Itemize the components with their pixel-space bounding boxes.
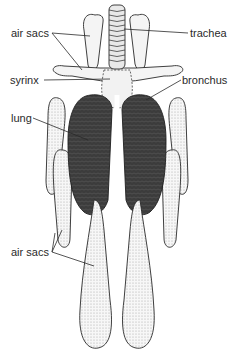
trachea-shape	[109, 5, 125, 69]
lungs	[68, 95, 166, 215]
label-air-sacs-upper: air sacs	[11, 27, 49, 39]
label-bronchus: bronchus	[182, 74, 227, 86]
abdominal-air-sacs	[80, 200, 155, 348]
label-air-sacs-lower: air sacs	[11, 246, 49, 258]
label-syrinx: syrinx	[10, 74, 39, 86]
label-trachea: trachea	[190, 27, 227, 39]
bird-respiratory-diagram	[0, 0, 236, 362]
label-lung: lung	[11, 112, 32, 124]
